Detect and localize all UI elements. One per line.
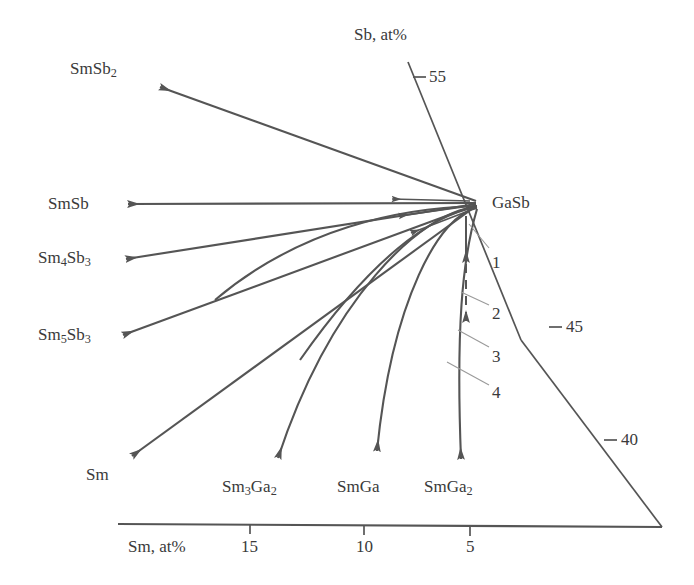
tie-line-smsb2 <box>160 87 476 201</box>
phase-label-smga2-base: SmGa <box>424 477 467 496</box>
phase-label-sm3ga2: Sm3Ga2 <box>222 478 277 498</box>
phase-label-sm4sb3: Sm4Sb3 <box>38 249 91 269</box>
phase-label-sm5sb3-sub2: 3 <box>85 332 91 346</box>
phase-diagram-figure: Sb, at% 55 45 40 Sm, at% 15 10 5 GaSb Sm… <box>0 0 694 585</box>
phase-label-smsb2-sub: 2 <box>111 66 117 80</box>
leader-line-1 <box>469 224 489 248</box>
sm-axis-label: Sm, at% <box>128 538 186 555</box>
tie-segment-short-1 <box>392 199 470 201</box>
tick-label-ga-40: 40 <box>621 431 638 448</box>
tie-line-smga2 <box>459 209 477 459</box>
phase-label-sm4sb3-sub2: 3 <box>85 255 91 269</box>
tick-label-sm-10: 10 <box>356 538 373 555</box>
phase-label-smsb2: SmSb2 <box>70 60 117 80</box>
callout-label-3: 3 <box>492 348 501 365</box>
ga-axis-line <box>521 340 662 527</box>
phase-label-smga2-sub: 2 <box>467 484 473 498</box>
tick-label-sb-55: 55 <box>429 68 446 85</box>
tie-line-sm3ga2 <box>278 207 476 458</box>
sb-axis-label: Sb, at% <box>354 26 407 43</box>
callout-label-4: 4 <box>492 384 501 401</box>
phase-label-sm5sb3: Sm5Sb3 <box>38 326 91 346</box>
phase-label-sm5sb3-base2: Sb <box>67 325 85 344</box>
phase-label-smga-base: SmGa <box>337 477 380 496</box>
tie-line-smga <box>377 208 477 451</box>
boundary-curve-b <box>300 207 477 360</box>
sm-axis-line <box>118 524 662 527</box>
tick-label-sm-15: 15 <box>241 538 258 555</box>
phase-label-sm3ga2-base: Sm <box>222 477 245 496</box>
tie-lines <box>123 87 477 459</box>
leader-line-4 <box>447 362 489 385</box>
tie-line-smsb <box>128 203 476 204</box>
phase-label-smsb-base: SmSb <box>48 194 89 213</box>
phase-label-smga2: SmGa2 <box>424 478 473 498</box>
phase-label-smsb: SmSb <box>48 195 89 212</box>
phase-label-sm3ga2-sub2: 2 <box>271 484 277 498</box>
callout-label-2: 2 <box>492 305 501 322</box>
phase-label-smsb2-base: SmSb <box>70 59 111 78</box>
phase-label-sm3ga2-base2: Ga <box>251 477 271 496</box>
compound-label-gasb: GaSb <box>492 194 530 211</box>
axis-frame <box>118 62 662 527</box>
leader-line-3 <box>458 330 489 347</box>
tick-marks <box>250 77 617 536</box>
phase-label-sm-base: Sm <box>86 465 109 484</box>
phase-label-sm5sb3-base: Sm <box>38 325 61 344</box>
tick-label-sm-5: 5 <box>466 538 475 555</box>
phase-diagram-canvas <box>0 0 694 585</box>
phase-label-smga: SmGa <box>337 478 380 495</box>
phase-label-sm: Sm <box>86 466 109 483</box>
phase-label-sm4sb3-base: Sm <box>38 248 61 267</box>
phase-label-sm4sb3-base2: Sb <box>67 248 85 267</box>
callout-label-1: 1 <box>492 254 501 271</box>
tie-line-sm5sb3 <box>123 205 476 335</box>
tick-label-ga-45: 45 <box>566 318 583 335</box>
